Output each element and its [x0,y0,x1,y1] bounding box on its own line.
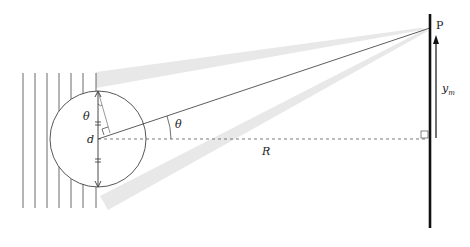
distance-label: R [262,146,270,157]
ym-label-sub: m [448,89,455,97]
ym-label: ym [442,83,455,97]
diagram-canvas [0,0,470,247]
theta-arc [167,116,171,139]
theta-angle-label: θ [175,119,182,130]
slit-separation-label: d [87,134,94,145]
screen-right-angle [421,131,428,138]
ym-arrowhead [433,35,439,44]
point-label: P [436,20,443,31]
theta-top-label: θ [83,111,90,122]
